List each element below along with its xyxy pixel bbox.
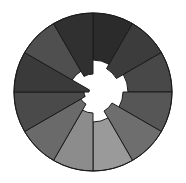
rose-chart-figure [0, 0, 186, 183]
rose-chart-canvas [0, 0, 186, 183]
